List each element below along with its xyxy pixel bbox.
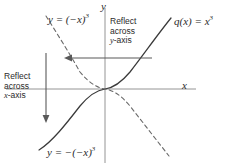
annotation-reflect-across-x-axis: Reflect across x-axis [4,72,30,101]
curve-label-negative-x-cubed: y = (−x)3 [48,14,89,25]
x-axis-label: x [182,80,187,91]
curve-label-negative-x-cubed-base: y = (−x) [48,13,85,25]
annotation-reflect-across-y-axis-line3: y-axis [110,36,136,46]
y-axis-label: y [101,1,106,12]
curve-label-negative-x-cubed-exponent: 3 [85,12,89,20]
graph-figure: y x y = (−x)3 q(x) = x3 y = −(−x)3 Refle… [0,0,226,167]
annotation-reflect-across-x-axis-axis-suffix: -axis [8,90,26,100]
curve-label-negated-negative-x-cubed-exponent: 3 [92,145,96,153]
curve-label-negated-negative-x-cubed: y = −(−x)3 [47,147,95,158]
curve-label-negated-negative-x-cubed-base: y = −(−x) [47,146,92,158]
curve-label-q-x-base: q(x) = x [174,15,210,27]
curve-negative-x-cubed [46,16,169,156]
annotation-reflect-across-y-axis: Reflect across y-axis [110,17,136,46]
curve-label-q-x: q(x) = x3 [174,16,213,27]
curve-label-q-x-exponent: 3 [210,14,214,22]
annotation-reflect-across-y-axis-axis-suffix: -axis [114,35,132,45]
reflect-across-x-axis-arrow [43,53,50,123]
annotation-reflect-across-x-axis-line3: x-axis [4,91,30,101]
